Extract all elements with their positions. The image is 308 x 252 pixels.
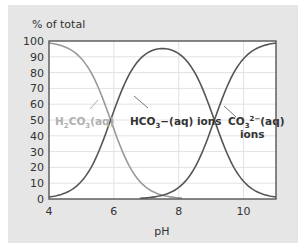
y-tick-label: 70 [30,82,44,95]
y-tick-label: 50 [30,114,44,127]
y-tick-label: 100 [23,35,44,48]
y-tick-label: 10 [30,177,44,190]
y-tick-label: 60 [30,98,44,111]
speciation-chart: % of total 0102030405060708090100 46810 … [0,0,308,252]
y-axis-ticks: 0102030405060708090100 [23,35,44,206]
y-tick-label: 0 [37,193,44,206]
y-tick-label: 30 [30,146,44,159]
x-tick-label: 10 [237,205,251,218]
y-tick-label: 40 [30,130,44,143]
x-axis-title: pH [154,225,169,238]
y-tick-label: 90 [30,51,44,64]
co3-label-ions: ions [240,128,265,140]
x-tick-label: 4 [46,205,53,218]
y-tick-label: 80 [30,67,44,80]
x-tick-label: 6 [110,205,117,218]
x-tick-label: 8 [175,205,182,218]
x-axis-ticks: 46810 [46,205,251,218]
y-tick-label: 20 [30,161,44,174]
y-axis-title: % of total [32,18,85,31]
